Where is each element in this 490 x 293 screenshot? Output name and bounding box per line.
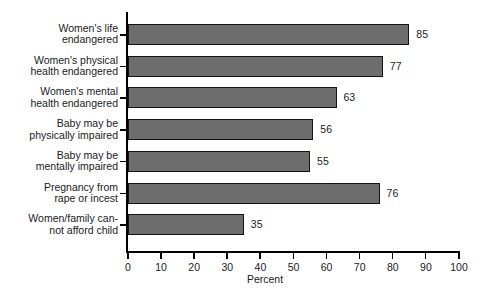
bar-value-label: 77	[390, 60, 402, 72]
x-tick-mark	[359, 253, 361, 259]
category-tick	[120, 97, 127, 99]
bar	[128, 183, 380, 204]
x-tick-mark	[193, 253, 195, 259]
bar-value-label: 76	[387, 187, 399, 199]
x-tick-mark	[326, 253, 328, 259]
bar-value-label: 55	[317, 155, 329, 167]
bar-row: Women/family can- not afford child35	[0, 214, 490, 235]
bar	[128, 214, 244, 235]
x-tick-mark	[458, 253, 460, 259]
category-tick	[120, 161, 127, 163]
bar	[128, 151, 310, 172]
x-tick-label: 100	[444, 261, 474, 273]
x-tick-mark	[127, 253, 129, 259]
category-tick	[120, 193, 127, 195]
x-tick-mark	[226, 253, 228, 259]
category-tick	[120, 34, 127, 36]
bar-row: Baby may be physically impaired56	[0, 119, 490, 140]
x-tick-label: 60	[312, 261, 342, 273]
x-tick-label: 90	[411, 261, 441, 273]
bar	[128, 56, 383, 77]
x-tick-label: 10	[146, 261, 176, 273]
x-axis-title: Percent	[0, 273, 490, 285]
bar-value-label: 35	[251, 218, 263, 230]
bar	[128, 119, 313, 140]
horizontal-bar-chart: Women's life endangered85Women's physica…	[0, 0, 490, 293]
category-tick	[120, 66, 127, 68]
bar	[128, 24, 409, 45]
category-tick	[120, 224, 127, 226]
x-tick-label: 70	[345, 261, 375, 273]
x-tick-mark	[392, 253, 394, 259]
bar-value-label: 63	[344, 91, 356, 103]
x-tick-label: 20	[179, 261, 209, 273]
x-tick-label: 30	[212, 261, 242, 273]
x-tick-mark	[259, 253, 261, 259]
bar-value-label: 85	[416, 28, 428, 40]
x-tick-mark	[293, 253, 295, 259]
bar-row: Women's life endangered85	[0, 24, 490, 45]
bar-value-label: 56	[320, 123, 332, 135]
category-label: Women's life endangered	[0, 23, 118, 46]
category-label: Women's physical health endangered	[0, 55, 118, 78]
bar-row: Baby may be mentally impaired55	[0, 151, 490, 172]
bar-row: Women's physical health endangered77	[0, 56, 490, 77]
x-tick-mark	[425, 253, 427, 259]
category-label: Baby may be mentally impaired	[0, 150, 118, 173]
category-label: Pregnancy from rape or incest	[0, 182, 118, 205]
category-label: Women/family can- not afford child	[0, 213, 118, 236]
x-tick-mark	[160, 253, 162, 259]
bar-row: Women's mental health endangered63	[0, 87, 490, 108]
x-tick-label: 40	[245, 261, 275, 273]
bar	[128, 87, 337, 108]
bar-row: Pregnancy from rape or incest76	[0, 183, 490, 204]
x-tick-label: 80	[378, 261, 408, 273]
x-axis-title-text: Percent	[247, 273, 283, 285]
x-tick-label: 0	[113, 261, 143, 273]
category-label: Women's mental health endangered	[0, 86, 118, 109]
x-tick-label: 50	[279, 261, 309, 273]
category-label: Baby may be physically impaired	[0, 118, 118, 141]
category-tick	[120, 129, 127, 131]
